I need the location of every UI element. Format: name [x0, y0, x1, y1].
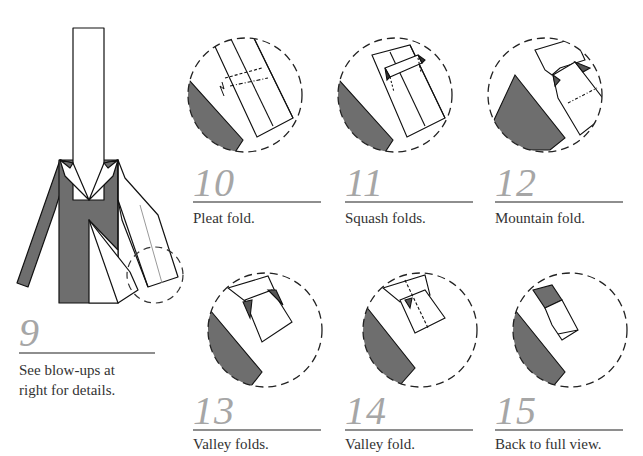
step-number: 13 — [193, 391, 235, 431]
step-caption: Mountain fold. — [495, 208, 585, 228]
step-caption: Back to full view. — [495, 434, 602, 454]
step-15-diagram — [500, 273, 627, 390]
sleeve-shade — [200, 310, 262, 390]
step-number: 11 — [345, 163, 384, 203]
sleeve-shade — [480, 75, 565, 150]
step-divider — [345, 201, 473, 203]
step-divider — [19, 352, 155, 354]
step-14-diagram — [350, 273, 477, 387]
step-caption: Valley folds. — [193, 434, 269, 454]
step-divider — [495, 201, 623, 203]
shirt-body — [553, 62, 612, 135]
step-caption: Squash folds. — [345, 208, 426, 228]
step-9-diagram — [17, 28, 183, 303]
step-divider — [495, 429, 623, 431]
step-number: 15 — [495, 391, 537, 431]
step-12-diagram — [480, 38, 612, 152]
step-divider — [193, 201, 321, 203]
step-number: 9 — [19, 313, 40, 353]
cuff-white — [545, 300, 578, 340]
step-number: 14 — [345, 391, 387, 431]
pleat-arrow-icon — [220, 82, 224, 96]
step-number: 10 — [193, 163, 235, 203]
step-10-diagram — [170, 30, 302, 160]
step-13-diagram — [200, 273, 322, 390]
step-caption: Pleat fold. — [193, 208, 255, 228]
step-divider — [345, 429, 473, 431]
step-11-diagram — [320, 38, 452, 160]
step-caption: See blow-ups at right for details. — [19, 360, 115, 400]
collar-fold-shade — [243, 300, 252, 318]
step-divider — [193, 429, 321, 431]
step-number: 12 — [495, 163, 537, 203]
shirt-body — [245, 290, 292, 342]
sleeve-shade — [320, 70, 393, 160]
origami-instructions-page: 9 See blow-ups at right for details. 10 … — [0, 0, 643, 456]
step-caption: Valley fold. — [345, 434, 415, 454]
